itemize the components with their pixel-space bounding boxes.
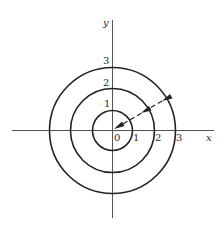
x-tick-1: 1 [133,132,139,143]
y-tick-2: 2 [103,77,109,88]
y-axis-label: y [102,17,109,28]
concentric-circles-diagram: y x 0 1 2 3 1 2 3 [0,0,224,228]
x-tick-3: 3 [176,132,182,143]
x-tick-2: 2 [155,132,161,143]
y-tick-3: 3 [103,55,109,66]
x-axis-label: x [206,132,212,143]
origin-label: 0 [114,132,120,143]
dashed-arrow [114,94,173,129]
y-tick-1: 1 [104,98,110,109]
arrowhead-origin-icon [114,122,125,130]
